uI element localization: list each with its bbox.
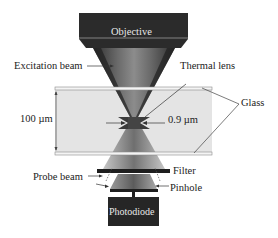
objective-label: Objective [111, 27, 152, 38]
pinhole-label: Pinhole [170, 183, 202, 194]
diagram-canvas: Objective Excitation beam Thermal lens G… [0, 0, 278, 238]
probe-beam-label: Probe beam [33, 172, 83, 183]
glass-label: Glass [241, 98, 264, 109]
glass-bottom-plate [55, 152, 212, 155]
filter-bar [97, 169, 170, 173]
pinhole-bar [110, 189, 158, 192]
thickness-label: 100 µm [20, 114, 53, 125]
photodiode-label: Photodiode [109, 207, 155, 217]
probe-beam-cone [110, 174, 157, 189]
thermal-lens-label: Thermal lens [180, 61, 235, 72]
excitation-beam-label: Excitation beam [14, 61, 83, 72]
probe-beam-leaders [88, 175, 109, 189]
spot-size-label: 0.9 µm [168, 115, 198, 126]
filter-label: Filter [173, 166, 196, 177]
glass-top-plate [55, 87, 212, 90]
pinhole-leader [155, 185, 169, 188]
